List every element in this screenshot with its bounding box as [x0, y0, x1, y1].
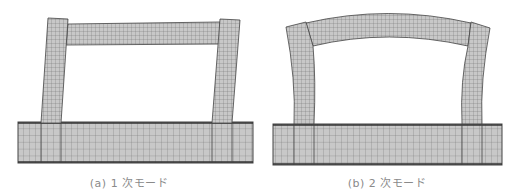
figure-a-mode1: (a) 1 次モード [0, 0, 258, 194]
left-column [286, 22, 315, 124]
ground-block [273, 124, 502, 165]
arched-beam [306, 14, 471, 47]
figure-b-mode2: (b) 2 次モード [258, 0, 516, 194]
beam [66, 22, 220, 45]
ground-block [18, 122, 253, 163]
caption-mode2: (b) 2 次モード [258, 174, 516, 190]
mesh-mode2-diagram [258, 0, 516, 194]
mesh-mode1-diagram [0, 0, 258, 194]
left-column [41, 18, 68, 123]
caption-mode1: (a) 1 次モード [0, 174, 258, 190]
